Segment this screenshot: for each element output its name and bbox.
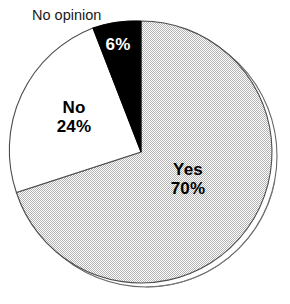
pie-chart-graphic xyxy=(0,0,290,304)
pie-chart-figure: Yes 70% No 24% 6% No opinion xyxy=(0,0,290,304)
